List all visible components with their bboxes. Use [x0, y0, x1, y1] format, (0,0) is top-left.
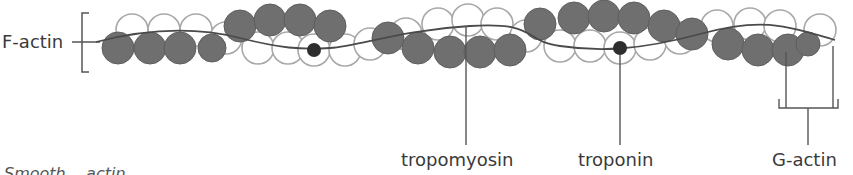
f-actin-bracket [72, 13, 100, 72]
label-troponin: troponin [578, 151, 653, 169]
troponin-dot [613, 41, 627, 55]
caption-clipped: Smooth... actin [4, 166, 126, 175]
label-tropomyosin: tropomyosin [401, 151, 514, 169]
troponin-dot [307, 43, 321, 57]
label-g-actin: G-actin [772, 151, 837, 169]
label-f-actin: F-actin [2, 33, 63, 51]
